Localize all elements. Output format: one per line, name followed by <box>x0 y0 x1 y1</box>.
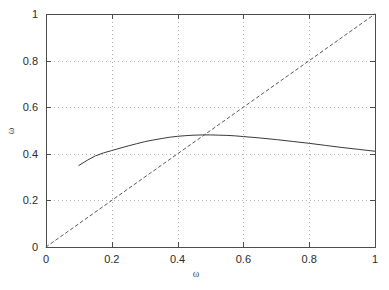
y-tick-label: 0.2 <box>23 194 38 206</box>
x-tick-label: 0.2 <box>104 253 119 265</box>
x-tick-label: 0.8 <box>302 253 317 265</box>
x-tick-label: 0.6 <box>236 253 251 265</box>
y-tick-label: 0 <box>32 241 38 253</box>
y-tick-label: 0.8 <box>23 55 38 67</box>
x-tick-label: 1 <box>372 253 378 265</box>
chart-figure: 00.20.40.60.81 00.20.40.60.81 ω ω <box>0 0 389 290</box>
x-tick-label: 0 <box>43 253 49 265</box>
y-tick-label: 0.4 <box>23 148 38 160</box>
x-tick-label: 0.4 <box>170 253 185 265</box>
y-axis-label: ω <box>5 127 16 134</box>
y-tick-label: 0.6 <box>23 101 38 113</box>
y-tick-label: 1 <box>32 8 38 20</box>
x-axis-label: ω <box>193 268 200 279</box>
plot-canvas: 00.20.40.60.81 00.20.40.60.81 ω ω <box>0 0 389 290</box>
